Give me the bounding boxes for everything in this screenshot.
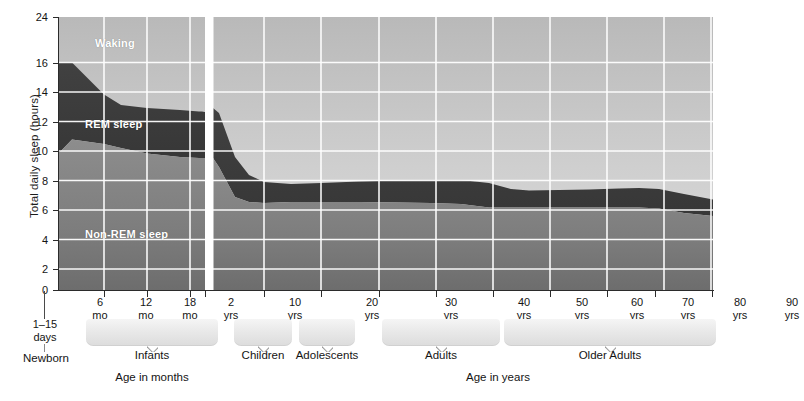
y-tick-2 bbox=[53, 269, 59, 270]
y-tick-label-6: 6 bbox=[22, 204, 48, 216]
x-label-30yrs: 30 yrs bbox=[427, 296, 475, 321]
x-label-6mo: 6 mo bbox=[76, 296, 124, 321]
x-label-60yrs-value: 60 bbox=[631, 296, 643, 308]
x-label-18mo-value: 18 bbox=[184, 296, 196, 308]
newborn-age-range-line2: days bbox=[33, 331, 56, 343]
x-tick-60yrs bbox=[550, 291, 551, 297]
x-tick-50yrs bbox=[493, 291, 494, 297]
x-label-50yrs-value: 50 bbox=[576, 296, 588, 308]
group-bracket-children-bar bbox=[234, 319, 292, 346]
y-tick-label-16: 16 bbox=[22, 57, 48, 69]
y-tick-label-24: 24 bbox=[22, 11, 48, 23]
x-label-30yrs-value: 30 bbox=[445, 296, 457, 308]
x-tick-90yrs bbox=[712, 291, 713, 297]
x-label-40yrs: 40 yrs bbox=[500, 296, 548, 321]
x-label-60yrs: 60 yrs bbox=[613, 296, 661, 321]
x-label-10yrs-value: 10 bbox=[289, 296, 301, 308]
x-scale-label-years: Age in years bbox=[466, 371, 530, 383]
y-tick-24 bbox=[53, 17, 59, 18]
y-tick-label-14: 14 bbox=[22, 86, 48, 98]
group-bracket-older-adults-bar bbox=[504, 319, 716, 346]
x-tick-70yrs bbox=[607, 291, 608, 297]
axis-break-band bbox=[205, 17, 214, 290]
rem-band-label: REM sleep bbox=[85, 118, 142, 130]
y-tick-label-8: 8 bbox=[22, 175, 48, 187]
x-label-12mo: 12 mo bbox=[122, 296, 170, 321]
y-axis-line bbox=[58, 17, 59, 291]
y-tick-8 bbox=[53, 181, 59, 182]
y-tick-6 bbox=[53, 210, 59, 211]
group-bracket-adults-bar bbox=[382, 319, 500, 346]
x-label-2yrs: 2 yrs bbox=[207, 296, 255, 321]
group-bracket-adolescents-bar bbox=[299, 319, 355, 346]
plot-area: Waking REM sleep Non-REM sleep bbox=[59, 17, 713, 290]
y-tick-label-12: 12 bbox=[22, 116, 48, 128]
newborn-stem bbox=[44, 344, 45, 352]
x-tick-10yrs bbox=[264, 291, 265, 297]
y-tick-label-10: 10 bbox=[22, 145, 48, 157]
y-tick-4 bbox=[53, 240, 59, 241]
x-label-20yrs: 20 yrs bbox=[348, 296, 396, 321]
non-rem-band-label: Non-REM sleep bbox=[85, 228, 168, 240]
newborn-age-range: 1–15 days bbox=[18, 318, 72, 343]
group-label-older-adults: Older Adults bbox=[464, 349, 756, 361]
x-label-40yrs-value: 40 bbox=[518, 296, 530, 308]
x-tick-20yrs bbox=[321, 291, 322, 297]
x-label-50yrs: 50 yrs bbox=[558, 296, 606, 321]
area-chart-svg bbox=[59, 17, 713, 290]
x-label-70yrs: 70 yrs bbox=[664, 296, 712, 321]
non-rem-sleep-area bbox=[59, 140, 206, 291]
x-label-80yrs-value: 80 bbox=[734, 296, 746, 308]
waking-band-label: Waking bbox=[95, 37, 135, 49]
x-label-20yrs-value: 20 bbox=[366, 296, 378, 308]
newborn-age-range-line1: 1–15 bbox=[33, 318, 57, 330]
x-label-70yrs-value: 70 bbox=[682, 296, 694, 308]
x-label-6mo-value: 6 bbox=[97, 296, 103, 308]
x-scale-label-months: Age in months bbox=[115, 371, 189, 383]
y-tick-16 bbox=[53, 63, 59, 64]
x-label-90yrs-value: 90 bbox=[786, 296, 798, 308]
x-label-90yrs: 90 yrs bbox=[768, 296, 804, 321]
x-axis-line bbox=[58, 290, 714, 291]
x-label-2yrs-value: 2 bbox=[228, 296, 234, 308]
newborn-tick-line bbox=[44, 291, 45, 319]
y-tick-label-2: 2 bbox=[22, 263, 48, 275]
x-label-80yrs-unit: yrs bbox=[716, 309, 764, 322]
y-tick-12 bbox=[53, 122, 59, 123]
x-label-80yrs: 80 yrs bbox=[716, 296, 764, 321]
y-tick-14 bbox=[53, 92, 59, 93]
y-tick-label-4: 4 bbox=[22, 234, 48, 246]
group-bracket-infants-bar bbox=[86, 319, 218, 346]
y-tick-10 bbox=[53, 151, 59, 152]
x-label-10yrs: 10 yrs bbox=[271, 296, 319, 321]
x-label-90yrs-unit: yrs bbox=[768, 309, 804, 322]
stacked-areas bbox=[59, 17, 713, 290]
x-label-12mo-value: 12 bbox=[140, 296, 152, 308]
